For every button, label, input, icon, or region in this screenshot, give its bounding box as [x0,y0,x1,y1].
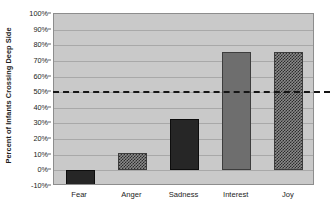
y-axis-title-text: Percent of Infants Crossing Deep Side [4,27,13,163]
y-axis-tick-label: 10% [33,149,48,158]
x-axis-tick-label-fear: Fear [71,190,87,199]
y-axis-tick-mark [48,169,51,170]
bar-interest[interactable] [222,52,251,171]
gridline [54,45,313,46]
y-axis-tick-mark [48,138,51,139]
bar-sadness[interactable] [170,119,199,171]
y-axis-tick-label: 90% [33,24,48,33]
bar-fear[interactable] [66,170,95,184]
x-axis-tick-label-joy: Joy [282,190,294,199]
y-axis-tick-mark [48,106,51,107]
y-axis-tick-label: 50% [33,87,48,96]
y-axis-tick-mark [48,91,51,92]
y-axis-tick-label: 30% [33,118,48,127]
y-axis-tick-mark [48,44,51,45]
y-axis-tick-mark [48,153,51,154]
y-axis-tick-label: 70% [33,55,48,64]
y-axis-tick-labels: 100%90%80%70%60%50%40%30%20%10%0%-10% [16,13,51,185]
bar-joy[interactable] [274,52,303,171]
y-axis-tick-label: 40% [33,102,48,111]
y-axis-title: Percent of Infants Crossing Deep Side [0,0,16,190]
y-axis-tick-label: -10% [31,181,48,190]
y-axis-tick-mark [48,122,51,123]
y-axis-tick-label: 80% [33,40,48,49]
y-axis-tick-label: 20% [33,134,48,143]
plot-area [53,13,314,185]
y-axis-tick-label: 60% [33,71,48,80]
y-axis-tick-mark [48,75,51,76]
x-axis-tick-label-sadness: Sadness [169,190,199,199]
y-axis-tick-mark [48,185,51,186]
y-axis-tick-mark [48,59,51,60]
x-axis-tick-label-anger: Anger [121,190,141,199]
plot-inner [54,14,313,184]
y-axis-tick-label: 100% [29,9,48,18]
x-axis-tick-label-interest: Interest [223,190,248,199]
y-axis-tick-mark [48,28,51,29]
bar-chart-figure: Percent of Infants Crossing Deep Side 10… [0,0,334,217]
x-axis-tick-labels: FearAngerSadnessInterestJoy [53,190,314,210]
y-axis-tick-mark [48,13,51,14]
gridline [54,30,313,31]
chance-level-reference-line [53,91,330,93]
y-axis-tick-label: 0% [37,165,48,174]
bar-anger[interactable] [118,153,147,170]
